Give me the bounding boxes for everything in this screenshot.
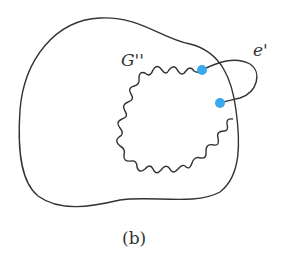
vertex-1 bbox=[197, 65, 207, 75]
figure-caption: (b) bbox=[122, 228, 146, 248]
diagram-canvas: G'' e' (b) bbox=[0, 0, 284, 262]
subgraph-label: G'' bbox=[121, 50, 144, 70]
wavy-subgraph-path bbox=[117, 67, 233, 173]
diagram-svg bbox=[0, 0, 284, 262]
outer-region-boundary bbox=[19, 18, 238, 207]
vertex-2 bbox=[215, 98, 225, 108]
edge-label: e' bbox=[253, 40, 268, 60]
